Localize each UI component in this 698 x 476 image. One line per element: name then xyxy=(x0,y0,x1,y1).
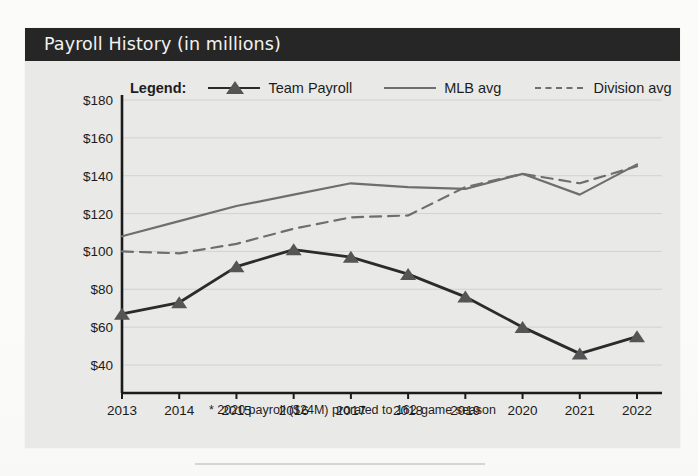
legend-label-mlb-avg: MLB avg xyxy=(444,80,501,96)
panel-title-bar: Payroll History (in millions) xyxy=(25,28,680,61)
chart-axes xyxy=(121,95,662,393)
panel-underline-rule xyxy=(195,463,485,465)
svg-text:$60: $60 xyxy=(90,320,113,335)
svg-text:$140: $140 xyxy=(83,169,113,184)
legend-item-mlb-avg[interactable]: MLB avg xyxy=(384,80,501,96)
svg-text:$40: $40 xyxy=(90,358,113,373)
page-background: Payroll History (in millions) Legend: Te… xyxy=(0,0,698,476)
svg-text:$160: $160 xyxy=(83,131,113,146)
payroll-history-panel: Payroll History (in millions) Legend: Te… xyxy=(25,28,680,448)
chart-gridlines xyxy=(122,100,662,365)
svg-text:$80: $80 xyxy=(90,282,113,297)
mlb-avg-swatch-icon xyxy=(384,81,436,95)
legend-label-division-avg: Division avg xyxy=(593,80,671,96)
chart-footnote: * 2020 payroll ($24M) prorated to 162-ga… xyxy=(25,403,680,417)
legend-item-team-payroll[interactable]: Team Payroll xyxy=(208,80,352,96)
chart-series-layer xyxy=(114,164,645,359)
svg-text:$120: $120 xyxy=(83,207,113,222)
y-axis-tick-labels: $40$60$80$100$120$140$160$180 xyxy=(83,93,113,373)
team-payroll-swatch-icon xyxy=(208,81,260,95)
legend-label-team-payroll: Team Payroll xyxy=(268,80,352,96)
svg-text:$100: $100 xyxy=(83,244,113,259)
page-title: Payroll History (in millions) xyxy=(44,34,281,54)
legend-title: Legend: xyxy=(130,80,186,96)
svg-text:$180: $180 xyxy=(83,93,113,108)
division-avg-swatch-icon xyxy=(533,81,585,95)
x-axis-ticks xyxy=(122,393,637,399)
chart-legend: Legend: Team Payroll MLB avg Division av xyxy=(130,76,670,100)
legend-item-division-avg[interactable]: Division avg xyxy=(533,80,671,96)
